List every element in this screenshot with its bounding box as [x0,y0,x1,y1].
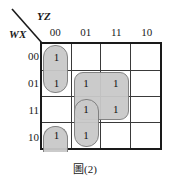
row-header-2: 11 [14,96,39,123]
cell-value-r0c1 [72,44,101,70]
kmap-cell-r1c2[interactable]: 1 [101,70,131,96]
kmap-cell-r2c0[interactable] [42,96,71,122]
kmap-cell-r1c0[interactable]: 1 [42,70,71,96]
kmap-cell-r3c1[interactable]: 1 [71,122,101,148]
cell-value-r1c0: 1 [42,71,71,96]
column-header-1: 01 [71,26,102,41]
column-header-0: 00 [40,26,71,41]
table-row: 1 1 [42,122,160,148]
cell-value-r3c0: 1 [42,123,71,149]
cell-value-r1c1: 1 [72,71,101,96]
kmap-cell-r1c3[interactable] [131,70,160,96]
column-headers: 00 01 11 10 [40,26,162,41]
figure-caption: 圖(2) [0,160,170,176]
row-header-0: 00 [14,42,39,69]
cell-value-r3c2 [101,123,130,149]
cell-value-r0c2 [101,44,130,70]
cell-value-r0c0: 1 [42,44,71,70]
kmap-grid: 1 1 1 1 1 1 1 1 [40,42,162,150]
kmap-cell-r2c1[interactable]: 1 [71,96,101,122]
kmap-table: 1 1 1 1 1 1 1 1 [42,44,160,148]
kmap-cell-r1c1[interactable]: 1 [71,70,101,96]
cell-value-r2c3 [131,97,160,122]
kmap-figure: YZ WX 00 01 11 10 00 01 11 10 1 [0,0,170,183]
kmap-cell-r3c0[interactable]: 1 [42,122,71,148]
kmap-cell-r3c2[interactable] [101,122,131,148]
kmap-cell-r3c3[interactable] [131,122,160,148]
kmap-cell-r2c2[interactable]: 1 [101,96,131,122]
row-header-3: 10 [14,123,39,150]
cell-value-r1c2: 1 [101,71,130,96]
column-header-3: 10 [132,26,163,41]
kmap-cell-r0c0[interactable]: 1 [42,44,71,70]
cell-value-r2c2: 1 [101,97,130,122]
axis-rows-label: WX [9,28,27,40]
table-row: 1 1 1 [42,70,160,96]
axis-columns-label: YZ [37,10,51,22]
row-header-1: 01 [14,69,39,96]
cell-value-r2c0 [42,97,71,122]
cell-value-r3c3 [131,123,160,149]
row-headers: 00 01 11 10 [14,42,39,150]
cell-value-r3c1: 1 [72,123,101,149]
kmap-cell-r2c3[interactable] [131,96,160,122]
cell-value-r2c1: 1 [72,97,101,122]
table-row: 1 [42,44,160,70]
kmap-cell-r0c1[interactable] [71,44,101,70]
table-row: 1 1 [42,96,160,122]
cell-value-r1c3 [131,71,160,96]
column-header-2: 11 [101,26,132,41]
cell-value-r0c3 [131,44,160,70]
kmap-cell-r0c2[interactable] [101,44,131,70]
kmap-cell-r0c3[interactable] [131,44,160,70]
